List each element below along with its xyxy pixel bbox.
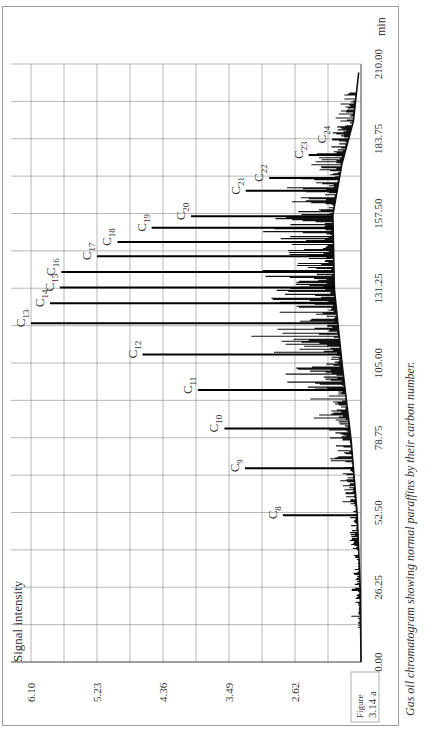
time-tick-label: 78.75 xyxy=(372,425,384,450)
time-tick-label: 0.00 xyxy=(372,652,384,672)
time-tick-label: 105.00 xyxy=(372,347,384,378)
time-tick-label: 52.50 xyxy=(372,500,384,525)
peak-label-c20: C20 xyxy=(173,202,191,220)
peak-label-c10: C10 xyxy=(206,414,224,432)
time-axis-ticks: 0.0026.2552.5078.75105.00131.25157.50183… xyxy=(372,48,384,671)
figure-label-number: 3.14 a xyxy=(366,691,378,718)
peak-label-c11: C11 xyxy=(180,377,198,394)
time-tick-label: 210.00 xyxy=(372,48,384,79)
intensity-tick-label: 3.49 xyxy=(223,682,235,702)
figure-caption: Gas oil chromatogram showing normal para… xyxy=(403,362,417,716)
peak-label-c12: C12 xyxy=(125,341,143,359)
peak-label-c13: C13 xyxy=(13,309,31,327)
plot-grid xyxy=(11,64,361,662)
peak-label-c18: C18 xyxy=(99,228,117,246)
time-tick-label: 131.25 xyxy=(372,273,384,304)
peak-label-c19: C19 xyxy=(134,214,152,232)
x-axis-unit: min xyxy=(374,17,388,36)
intensity-tick-label: 4.36 xyxy=(157,682,169,702)
y-axis-title: Signal intensity xyxy=(10,580,25,662)
chromatogram-chart: C8C9C10C11C12C13C14C15C16C17C18C19C20C21… xyxy=(0,0,429,732)
intensity-tick-label: 5.23 xyxy=(91,682,103,702)
time-tick-label: 183.75 xyxy=(372,123,384,154)
time-tick-label: 26.25 xyxy=(372,574,384,599)
intensity-tick-label: 2.62 xyxy=(289,683,301,702)
intensity-tick-label: 6.10 xyxy=(25,682,37,702)
peak-label-c21: C21 xyxy=(228,177,246,195)
peak-label-c9: C9 xyxy=(227,459,245,473)
peak-label-c22: C22 xyxy=(251,164,269,182)
figure-label-word: Figure xyxy=(355,694,365,718)
time-tick-label: 157.50 xyxy=(372,198,384,229)
peak-label-c16: C16 xyxy=(43,258,61,276)
intensity-axis-ticks: 1.752.623.494.365.236.10 xyxy=(25,682,367,702)
peak-label-c23: C23 xyxy=(291,141,309,159)
peak-label-c24: C24 xyxy=(314,125,332,143)
